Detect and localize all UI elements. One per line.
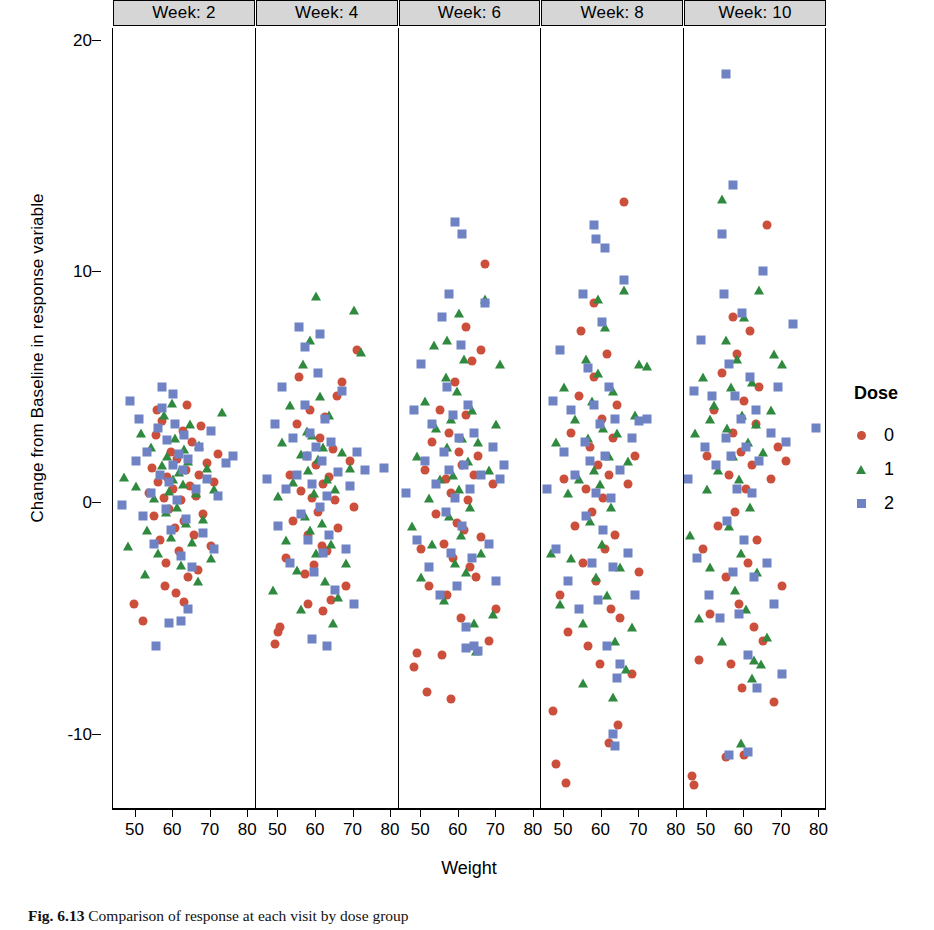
data-point-dose-2 [300,343,309,352]
data-point-dose-1 [595,479,605,488]
legend-item-dose-1[interactable]: 1 [848,452,934,486]
data-point-dose-0 [561,778,570,787]
x-tick-label: 80 [809,820,828,840]
data-point-dose-2 [601,243,610,252]
data-point-dose-1 [178,479,188,488]
data-point-dose-0 [477,345,486,354]
data-point-dose-2 [313,368,322,377]
x-tick-label: 70 [771,820,790,840]
data-point-dose-1 [491,419,501,428]
panel-strip-label: Week: 6 [399,0,541,26]
x-tick-label: 80 [523,820,542,840]
data-point-dose-1 [427,540,437,549]
data-point-dose-2 [420,456,429,465]
data-point-dose-0 [214,449,223,458]
x-tick-mark [135,808,136,817]
data-point-dose-2 [563,577,572,586]
data-point-dose-0 [319,607,328,616]
data-point-dose-2 [744,651,753,660]
data-point-dose-2 [285,558,294,567]
data-point-dose-0 [687,771,696,780]
data-point-dose-0 [762,220,771,229]
data-point-dose-2 [774,382,783,391]
data-point-dose-2 [167,526,176,535]
data-point-dose-2 [469,429,478,438]
data-point-dose-0 [749,623,758,632]
data-point-dose-0 [605,470,614,479]
data-point-dose-1 [217,408,227,417]
data-point-dose-2 [708,392,717,401]
data-point-dose-0 [413,648,422,657]
data-point-dose-2 [725,750,734,759]
data-point-dose-1 [164,486,174,495]
data-point-dose-0 [606,604,615,613]
data-point-dose-1 [281,535,291,544]
y-tick-mark [92,271,101,272]
data-point-dose-2 [580,438,589,447]
data-point-dose-1 [608,692,618,701]
data-point-dose-2 [693,554,702,563]
data-point-dose-2 [274,521,283,530]
data-point-dose-2 [458,521,467,530]
data-point-dose-0 [576,327,585,336]
data-point-dose-2 [736,415,745,424]
y-tick-mark [92,502,101,503]
legend-label: 2 [884,493,894,514]
data-point-dose-1 [157,461,167,470]
data-point-dose-2 [606,493,615,502]
data-point-dose-0 [612,401,621,410]
data-point-dose-2 [730,392,739,401]
data-point-dose-2 [552,544,561,553]
data-point-dose-0 [197,422,206,431]
data-point-dose-1 [416,572,426,581]
data-point-dose-0 [484,637,493,646]
data-point-dose-1 [420,396,430,405]
data-point-dose-1 [721,336,731,345]
x-tick-label: 50 [125,820,144,840]
data-point-dose-2 [574,604,583,613]
data-point-dose-0 [729,313,738,322]
legend-item-dose-2[interactable]: 2 [848,486,934,520]
data-point-dose-2 [165,477,174,486]
y-tick-label: 10 [46,263,92,280]
panel-plot-area [541,28,683,808]
data-point-dose-2 [449,410,458,419]
data-point-dose-0 [766,475,775,484]
data-point-dose-2 [588,558,597,567]
legend-item-dose-0[interactable]: 0 [848,418,934,452]
data-point-dose-2 [174,449,183,458]
data-point-dose-2 [432,479,441,488]
data-point-dose-2 [379,463,388,472]
data-point-dose-2 [582,512,591,521]
data-point-dose-2 [599,526,608,535]
data-point-dose-2 [345,482,354,491]
data-point-dose-0 [150,512,159,521]
data-point-dose-2 [467,554,476,563]
data-point-dose-1 [690,429,700,438]
data-point-dose-2 [610,415,619,424]
data-point-dose-2 [161,505,170,514]
data-point-dose-0 [473,452,482,461]
data-point-dose-2 [302,452,311,461]
x-tick-mark [353,808,354,817]
data-point-dose-1 [296,604,306,613]
data-point-dose-2 [202,475,211,484]
data-point-dose-1 [452,387,462,396]
data-point-dose-2 [460,461,469,470]
x-tick-mark [458,808,459,817]
data-point-dose-2 [300,401,309,410]
legend-label: 1 [884,459,894,480]
data-point-dose-1 [777,359,787,368]
x-tick-mark [210,808,211,817]
data-point-dose-1 [277,438,287,447]
data-point-dose-2 [458,229,467,238]
data-point-dose-2 [319,549,328,558]
y-tick-label: 0 [46,494,92,511]
data-point-dose-2 [481,299,490,308]
data-point-dose-1 [309,489,319,498]
data-point-dose-2 [777,669,786,678]
data-point-dose-0 [781,456,790,465]
data-point-dose-1 [762,632,772,641]
data-point-dose-1 [619,285,629,294]
data-point-dose-2 [717,229,726,238]
